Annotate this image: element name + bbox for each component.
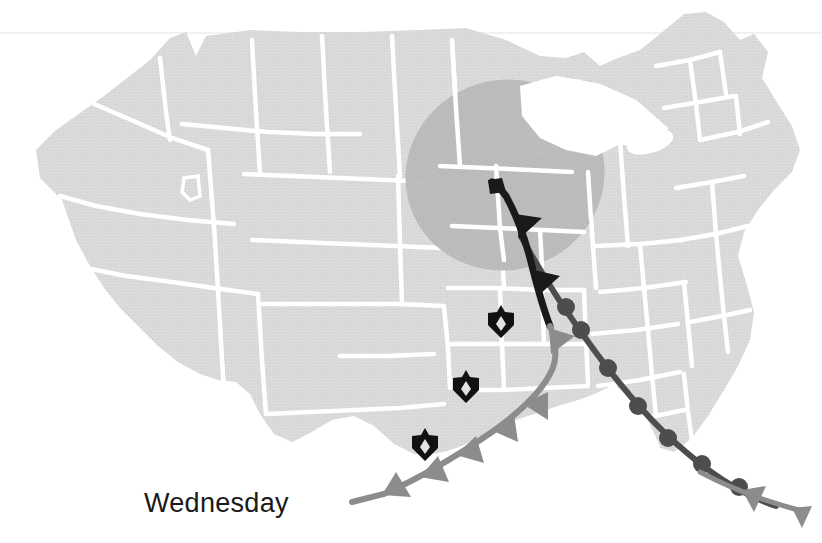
weather-map-canvas: Wednesday xyxy=(0,0,822,543)
day-label: Wednesday xyxy=(144,488,289,518)
cold-front-tail xyxy=(700,472,812,528)
weather-map-figure: Wednesday xyxy=(0,0,822,543)
